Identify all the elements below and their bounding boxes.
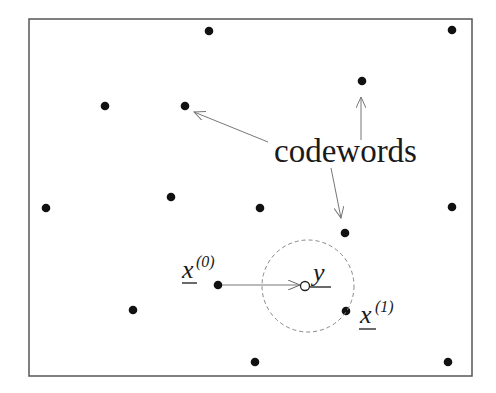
pointer-arrow-left [194,112,268,142]
nearest-label: x (1) [359,298,394,329]
codeword-dot [448,26,457,35]
codeword-dot [129,306,138,315]
codewords-label: codewords [274,133,417,169]
codeword-dot [251,358,260,367]
x1-symbol: x [359,300,372,329]
codeword-dot [444,358,453,367]
transmitted-codeword-dot [214,281,223,290]
nearest-codeword-dot [342,307,351,316]
received-label: y [310,258,325,287]
received-point [301,282,310,291]
codeword-dot [448,203,457,212]
codeword-points [42,26,457,367]
codeword-dot [358,77,367,86]
codeword-diagram: codewords y x (0) x (1) [0,0,496,393]
pointer-arrow-down [331,168,341,218]
x0-superscript: (0) [196,253,215,271]
x0-symbol: x [181,255,194,284]
codeword-dot [341,229,350,238]
codeword-dot [205,27,214,36]
codeword-dot [101,102,110,111]
codeword-dot [256,204,265,213]
codeword-dot [42,204,51,213]
transmitted-label: x (0) [181,253,215,284]
codeword-dot [167,193,176,202]
diagram-frame [29,19,472,376]
x1-superscript: (1) [375,298,394,316]
codeword-dot [181,102,190,111]
